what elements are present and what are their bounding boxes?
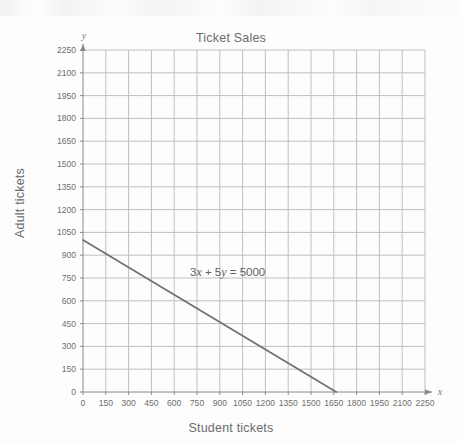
y-tick-label: 1350 xyxy=(57,182,76,192)
y-tick-label: 0 xyxy=(71,387,76,397)
x-tick-label: 1800 xyxy=(347,398,366,408)
x-tick-label: 600 xyxy=(167,398,182,408)
y-tick-label: 1500 xyxy=(57,159,76,169)
x-tick-label: 2100 xyxy=(393,398,412,408)
x-tick-label: 750 xyxy=(190,398,205,408)
x-tick-label: 1500 xyxy=(301,398,320,408)
plot-area: 0150300450600750900105012001350150016501… xyxy=(0,0,462,443)
grid-vertical-lines xyxy=(106,50,425,392)
y-tick-label: 2100 xyxy=(57,68,76,78)
x-tick-label: 1350 xyxy=(279,398,298,408)
chart-page: Ticket Sales Adult tickets Student ticke… xyxy=(0,0,462,443)
x-tick-label: 1050 xyxy=(233,398,252,408)
y-tick-label: 1800 xyxy=(57,113,76,123)
x-axis-variable-letter: x xyxy=(437,386,443,397)
x-tick-label: 300 xyxy=(121,398,136,408)
equation-annotation: 3x + 5y = 5000 xyxy=(190,265,265,279)
x-tick-label: 2250 xyxy=(415,398,434,408)
y-tick-label: 150 xyxy=(62,364,77,374)
y-axis-variable-letter: y xyxy=(81,30,87,41)
y-tick-label: 600 xyxy=(62,296,77,306)
y-tick-label: 900 xyxy=(62,250,77,260)
x-tick-label: 1650 xyxy=(324,398,343,408)
y-tick-label: 300 xyxy=(62,341,77,351)
y-tick-label: 2250 xyxy=(57,45,76,55)
grid-horizontal-lines xyxy=(83,50,425,369)
x-tick-label: 900 xyxy=(213,398,228,408)
x-tick-label: 1950 xyxy=(370,398,389,408)
y-tick-label: 750 xyxy=(62,273,77,283)
x-tick-label: 450 xyxy=(144,398,159,408)
x-axis-arrow-icon xyxy=(425,389,432,395)
y-tick-label: 1950 xyxy=(57,91,76,101)
y-tick-label: 1650 xyxy=(57,136,76,146)
y-tick-label: 1050 xyxy=(57,227,76,237)
x-tick-label: 150 xyxy=(99,398,114,408)
x-tick-label: 1200 xyxy=(256,398,275,408)
y-tick-label: 1200 xyxy=(57,205,76,215)
y-tick-label: 450 xyxy=(62,319,77,329)
x-tick-labels: 0150300450600750900105012001350150016501… xyxy=(81,398,435,408)
x-tick-label: 0 xyxy=(81,398,86,408)
y-tick-labels: 0150300450600750900105012001350150016501… xyxy=(57,45,76,397)
